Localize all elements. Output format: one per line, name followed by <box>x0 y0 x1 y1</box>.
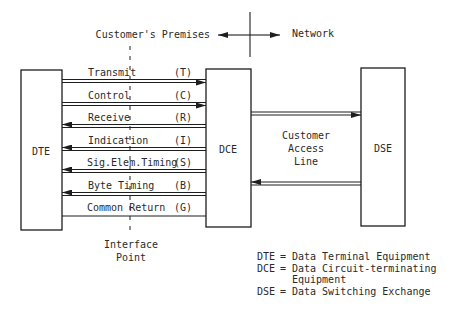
signal-byte-timing: Byte Timing(B) <box>62 180 206 196</box>
signal-name: Sig.Elem.Timing <box>87 157 177 168</box>
legend-text: Equipment <box>292 274 346 285</box>
network-label: Network <box>292 28 334 39</box>
dse-box: DSE <box>361 68 405 226</box>
signal-name: Indication <box>88 135 148 146</box>
signal-code: (S) <box>174 157 192 168</box>
dse-label: DSE <box>374 143 392 154</box>
signal-code: (G) <box>174 202 192 213</box>
signal-name: Receive <box>88 112 130 123</box>
legend-equals: = <box>280 263 286 274</box>
signal-code: (B) <box>174 180 192 191</box>
access-line-label-3: Line <box>294 156 318 167</box>
interface-point-label-2: Point <box>116 252 146 263</box>
signal-transmit: Transmit(T) <box>62 67 206 83</box>
legend-abbr: DCE <box>257 263 275 274</box>
access-line-label-1: Customer <box>282 130 330 141</box>
legend-text: Data Circuit-terminating <box>292 263 437 274</box>
dte-box: DTE <box>21 70 62 230</box>
interchange-circuits: Transmit(T)Control(C)Receive(R)Indicatio… <box>62 67 206 216</box>
access-line-label-2: Access <box>288 143 324 154</box>
legend: DTE=Data Terminal EquipmentDCE=Data Circ… <box>257 251 437 297</box>
signal-name: Transmit <box>88 67 136 78</box>
signal-code: (I) <box>174 135 192 146</box>
dce-label: DCE <box>219 144 237 155</box>
signal-code: (R) <box>174 112 192 123</box>
signal-receive: Receive(R) <box>62 112 206 128</box>
legend-abbr: DTE <box>257 251 275 262</box>
interface-diagram: Customer's Premises Network DTE DCE DSE … <box>0 0 451 312</box>
customer-access-line: Customer Access Line <box>251 112 361 185</box>
dce-box: DCE <box>206 69 251 227</box>
signal-sig-elem-timing: Sig.Elem.Timing(S) <box>62 157 206 173</box>
customers-premises-label: Customer's Premises <box>96 29 210 40</box>
signal-code: (T) <box>174 67 192 78</box>
signal-code: (C) <box>174 90 192 101</box>
interface-point-label-1: Interface <box>104 239 158 250</box>
signal-control: Control(C) <box>62 90 206 106</box>
signal-name: Control <box>88 90 130 101</box>
legend-text: Data Switching Exchange <box>292 286 430 297</box>
signal-indication: Indication(I) <box>62 135 206 151</box>
signal-common-return: Common Return(G) <box>62 202 206 216</box>
signal-name: Byte Timing <box>88 180 154 191</box>
legend-equals: = <box>280 286 286 297</box>
legend-abbr: DSE <box>257 286 275 297</box>
legend-equals: = <box>280 251 286 262</box>
dte-label: DTE <box>32 146 50 157</box>
signal-name: Common Return <box>87 202 165 213</box>
legend-text: Data Terminal Equipment <box>292 251 430 262</box>
